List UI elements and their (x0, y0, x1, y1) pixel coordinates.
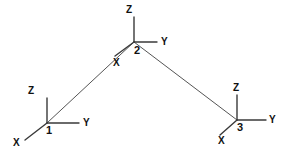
member-2-3 (134, 42, 237, 120)
node-2-x-label: X (113, 57, 120, 68)
node-3-z-label: Z (233, 82, 239, 93)
member-1-2 (47, 42, 134, 123)
members-group (47, 42, 237, 123)
node-2-triad: Z Y X 2 (113, 4, 168, 68)
diagram-canvas: Z Y X 1 Z Y X 2 Z Y X 3 (0, 0, 282, 151)
node-3-x-label: X (218, 135, 225, 146)
node-3-triad: Z Y X 3 (218, 82, 276, 146)
node-2-number: 2 (134, 44, 140, 56)
node-3-y-label: Y (269, 114, 276, 125)
node-1-y-label: Y (83, 117, 90, 128)
node-1-triad: Z Y X 1 (13, 85, 90, 148)
frame-diagram: Z Y X 1 Z Y X 2 Z Y X 3 (0, 0, 282, 151)
node-3-x-axis (220, 120, 237, 135)
node-2-z-label: Z (126, 4, 132, 15)
node-1-x-label: X (13, 137, 20, 148)
node-3-number: 3 (237, 121, 243, 133)
node-1-z-label: Z (28, 85, 34, 96)
node-1-x-axis (25, 123, 47, 140)
node-2-x-axis (115, 42, 134, 56)
node-2-y-label: Y (161, 36, 168, 47)
node-1-number: 1 (46, 124, 52, 136)
